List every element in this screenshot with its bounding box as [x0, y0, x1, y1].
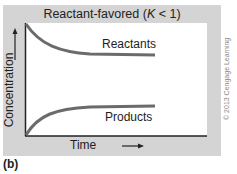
x-axis-label: Time	[70, 137, 96, 153]
reactants-label: Reactants	[102, 37, 156, 51]
y-axis-label: Concentration	[2, 50, 16, 130]
y-axis-arrowhead-icon	[13, 28, 18, 34]
products-label: Products	[105, 110, 152, 124]
concentration-time-chart	[0, 0, 237, 174]
x-axis-arrowhead-icon	[138, 144, 144, 149]
panel-label: (b)	[3, 157, 18, 171]
copyright-notice: © 2013 Cengage Learning	[222, 40, 232, 120]
